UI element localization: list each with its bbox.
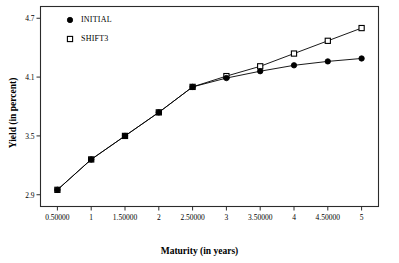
x-tick-label: 0.50000 — [45, 213, 69, 222]
data-point-shift3 — [291, 51, 296, 56]
x-axis-title: Maturity (in years) — [0, 246, 399, 256]
x-tick-label: 1 — [89, 213, 93, 222]
y-tick-label: 4.7 — [7, 14, 35, 23]
x-tick-label: 1.50000 — [113, 213, 137, 222]
y-tick-label: 2.9 — [7, 190, 35, 199]
series-line-shift3 — [57, 28, 361, 190]
data-point-initial — [190, 84, 195, 89]
data-series-group — [55, 25, 365, 192]
legend-markers — [67, 17, 72, 41]
data-point-initial — [359, 56, 364, 61]
data-point-initial — [291, 63, 296, 68]
data-point-shift3 — [359, 25, 364, 30]
plot-area — [0, 0, 399, 263]
legend-marker-shift3 — [67, 36, 72, 41]
legend-label-shift3: SHIFT3 — [81, 34, 108, 43]
x-tick-label: 2.50000 — [180, 213, 204, 222]
x-tick-label: 5 — [360, 213, 364, 222]
series-line-initial — [57, 58, 361, 189]
data-point-shift3 — [325, 38, 330, 43]
data-point-initial — [89, 157, 94, 162]
y-axis-ticks — [37, 18, 41, 194]
data-point-initial — [224, 75, 229, 80]
data-point-initial — [122, 133, 127, 138]
x-tick-label: 3.50000 — [248, 213, 272, 222]
legend-marker-initial — [67, 17, 72, 22]
data-point-initial — [325, 59, 330, 64]
legend-label-initial: INITIAL — [81, 15, 112, 24]
yield-curve-chart: 0.5000011.5000022.5000033.5000044.500005… — [0, 0, 399, 263]
x-tick-label: 4.50000 — [316, 213, 340, 222]
x-tick-label: 4 — [292, 213, 296, 222]
data-point-initial — [55, 187, 60, 192]
data-point-initial — [156, 110, 161, 115]
x-tick-label: 3 — [225, 213, 229, 222]
y-axis-title: Yield (in percent) — [8, 48, 18, 178]
x-tick-label: 2 — [157, 213, 161, 222]
x-axis-ticks — [57, 207, 361, 211]
data-point-initial — [258, 69, 263, 74]
